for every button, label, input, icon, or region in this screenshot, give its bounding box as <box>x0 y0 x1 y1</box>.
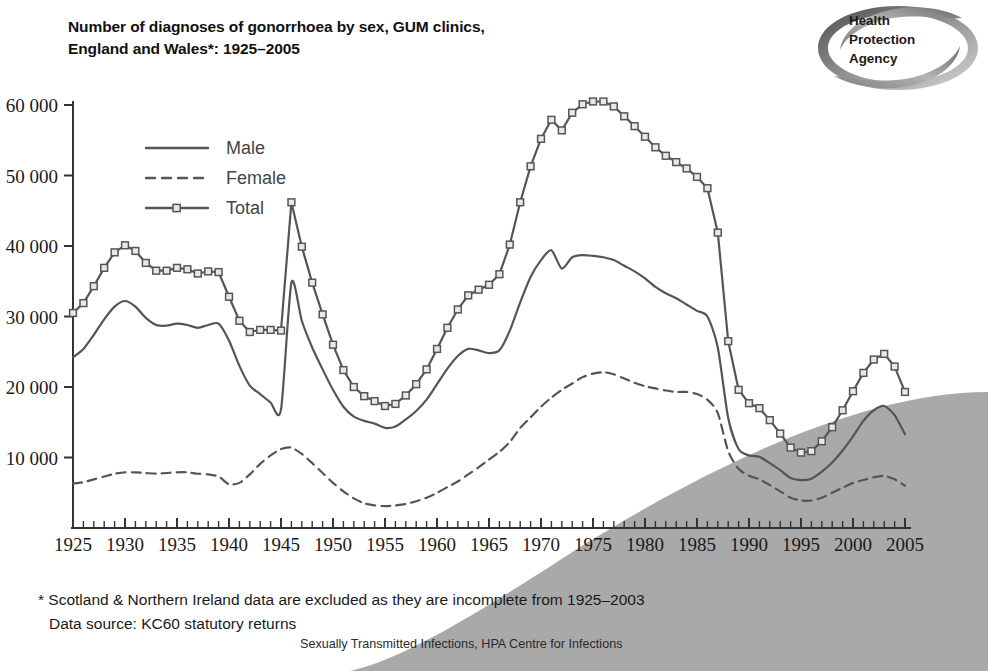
y-axis-ticks <box>64 105 73 458</box>
y-tick-label: 20 000 <box>6 377 58 398</box>
data-point-marker <box>340 367 347 374</box>
data-point-marker <box>839 407 846 414</box>
data-point-marker <box>413 381 420 388</box>
legend-marker-total <box>173 204 180 211</box>
data-point-marker <box>735 386 742 393</box>
data-point-marker <box>434 346 441 353</box>
data-point-marker <box>891 363 898 370</box>
x-tick-label: 1950 <box>314 534 352 555</box>
x-tick-label: 1985 <box>678 534 716 555</box>
data-series-layer <box>70 98 909 506</box>
x-tick-label: 1930 <box>106 534 144 555</box>
data-point-marker <box>486 281 493 288</box>
x-tick-label: 1940 <box>210 534 248 555</box>
source-credit: Sexually Transmitted Infections, HPA Cen… <box>300 637 622 651</box>
data-point-marker <box>527 163 534 170</box>
data-point-marker <box>163 267 170 274</box>
y-tick-label: 10 000 <box>6 448 58 469</box>
data-point-marker <box>496 271 503 278</box>
data-point-marker <box>621 113 628 120</box>
data-point-marker <box>215 269 222 276</box>
chart-legend: MaleFemaleTotal <box>146 138 286 218</box>
chart-page: Number of diagnoses of gonorrhoea by sex… <box>0 0 988 671</box>
data-point-marker <box>704 185 711 192</box>
data-point-marker <box>142 260 149 267</box>
data-point-marker <box>881 350 888 357</box>
data-point-marker <box>382 403 389 410</box>
y-tick-label: 50 000 <box>6 166 58 187</box>
data-point-marker <box>652 144 659 151</box>
legend-label-male: Male <box>226 138 265 158</box>
data-point-marker <box>392 401 399 408</box>
data-point-marker <box>80 300 87 307</box>
data-point-marker <box>350 384 357 391</box>
data-point-marker <box>278 327 285 334</box>
data-point-marker <box>236 317 243 324</box>
x-tick-label: 1960 <box>418 534 456 555</box>
x-tick-label: 1965 <box>470 534 508 555</box>
data-point-marker <box>454 306 461 313</box>
data-point-marker <box>548 116 555 123</box>
y-axis-tick-labels: 10 00020 00030 00040 00050 00060 000 <box>6 95 58 469</box>
data-point-marker <box>205 268 212 275</box>
x-tick-label: 2005 <box>886 534 924 555</box>
data-point-marker <box>309 279 316 286</box>
data-point-marker <box>153 267 160 274</box>
data-point-marker <box>361 393 368 400</box>
data-point-marker <box>798 449 805 456</box>
data-point-marker <box>590 98 597 105</box>
legend-label-female: Female <box>226 168 286 188</box>
data-point-marker <box>860 370 867 377</box>
data-point-marker <box>444 324 451 331</box>
x-tick-label: 1995 <box>782 534 820 555</box>
data-point-marker <box>319 311 326 318</box>
x-tick-label: 2000 <box>834 534 872 555</box>
data-point-marker <box>538 135 545 142</box>
data-point-marker <box>673 159 680 166</box>
x-tick-label: 1945 <box>262 534 300 555</box>
data-point-marker <box>194 270 201 277</box>
data-point-marker <box>257 327 264 334</box>
data-point-marker <box>184 266 191 273</box>
data-point-marker <box>174 264 181 271</box>
data-point-marker <box>714 229 721 236</box>
data-point-marker <box>818 438 825 445</box>
y-tick-label: 40 000 <box>6 236 58 257</box>
data-point-marker <box>90 283 97 290</box>
data-point-marker <box>226 293 233 300</box>
data-point-marker <box>600 98 607 105</box>
data-point-marker <box>746 400 753 407</box>
data-point-marker <box>132 248 139 255</box>
data-point-marker <box>475 286 482 293</box>
data-point-marker <box>766 417 773 424</box>
data-point-marker <box>330 341 337 348</box>
data-point-marker <box>122 242 129 249</box>
data-point-marker <box>756 405 763 412</box>
footnote-data-source: Data source: KC60 statutory returns <box>38 612 738 636</box>
footnote-exclusion-note: * Scotland & Northern Ireland data are e… <box>38 588 738 612</box>
x-tick-label: 1955 <box>366 534 404 555</box>
data-point-marker <box>777 430 784 437</box>
data-point-marker <box>465 292 472 299</box>
legend-label-total: Total <box>226 198 264 218</box>
data-point-marker <box>101 264 108 271</box>
data-point-marker <box>111 249 118 256</box>
data-point-marker <box>850 388 857 395</box>
line-chart: 10 00020 00030 00040 00050 00060 000 192… <box>0 0 988 580</box>
data-point-marker <box>808 448 815 455</box>
data-point-marker <box>246 329 253 336</box>
x-tick-label: 1990 <box>730 534 768 555</box>
data-point-marker <box>517 199 524 206</box>
data-point-marker <box>683 165 690 172</box>
data-point-marker <box>298 243 305 250</box>
data-point-marker <box>558 127 565 134</box>
data-point-marker <box>787 444 794 451</box>
x-tick-label: 1925 <box>54 534 92 555</box>
data-point-marker <box>829 424 836 431</box>
data-point-marker <box>288 199 295 206</box>
x-tick-label: 1975 <box>574 534 612 555</box>
y-tick-label: 60 000 <box>6 95 58 116</box>
data-point-marker <box>371 398 378 405</box>
data-point-marker <box>642 133 649 140</box>
data-point-marker <box>402 392 409 399</box>
